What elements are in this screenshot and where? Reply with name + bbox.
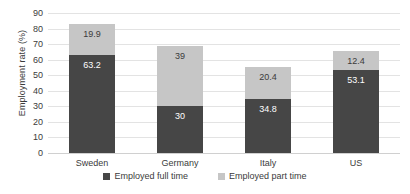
bar-segment-part-time[interactable]: 39 <box>157 46 203 107</box>
bar-value-label: 30 <box>157 112 203 121</box>
legend-swatch-icon <box>218 173 225 180</box>
legend-swatch-icon <box>103 173 110 180</box>
bar-group[interactable]: 19.963.2 <box>69 24 115 153</box>
bar-value-label: 12.4 <box>333 57 379 66</box>
y-axis-tick-label: 90 <box>33 8 43 18</box>
plot-area: 0102030405060708090 19.963.2393020.434.8… <box>48 13 400 153</box>
bar-segment-part-time[interactable]: 12.4 <box>333 51 379 70</box>
bar-segment-full-time[interactable]: 30 <box>157 106 203 153</box>
y-axis-tick-label: 10 <box>33 132 43 142</box>
bar-value-label: 34.8 <box>245 105 291 114</box>
bar-segment-full-time[interactable]: 53.1 <box>333 70 379 153</box>
x-axis-category-label: Italy <box>223 158 313 168</box>
legend-item[interactable]: Employed full time <box>103 171 188 181</box>
y-axis-tick-label: 80 <box>33 24 43 34</box>
bar-segment-part-time[interactable]: 20.4 <box>245 67 291 99</box>
y-axis-tick-label: 30 <box>33 101 43 111</box>
bar-segment-full-time[interactable]: 63.2 <box>69 55 115 153</box>
y-axis-tick-label: 50 <box>33 70 43 80</box>
legend-item-label: Employed full time <box>114 171 188 181</box>
y-axis-tick-label: 40 <box>33 86 43 96</box>
legend-item[interactable]: Employed part time <box>218 171 307 181</box>
x-axis-category-label: US <box>311 158 401 168</box>
bar-value-label: 63.2 <box>69 61 115 70</box>
bar-segment-full-time[interactable]: 34.8 <box>245 99 291 153</box>
legend-item-label: Employed part time <box>229 171 307 181</box>
stacked-bar-chart: Employment rate (%) 0102030405060708090 … <box>0 0 410 194</box>
bar-value-label: 19.9 <box>69 30 115 39</box>
bar-value-label: 39 <box>157 52 203 61</box>
y-axis-tick-label: 20 <box>33 117 43 127</box>
gridline <box>48 153 400 154</box>
bar-group[interactable]: 20.434.8 <box>245 67 291 153</box>
x-axis-category-label: Sweden <box>47 158 137 168</box>
y-axis-title: Employment rate (%) <box>17 3 27 143</box>
chart-legend: Employed full timeEmployed part time <box>0 171 410 181</box>
bar-segment-part-time[interactable]: 19.9 <box>69 24 115 55</box>
y-axis-tick-label: 60 <box>33 55 43 65</box>
bar-value-label: 20.4 <box>245 73 291 82</box>
y-axis-tick-label: 0 <box>38 148 43 158</box>
bar-group[interactable]: 3930 <box>157 46 203 153</box>
y-axis-tick-label: 70 <box>33 39 43 49</box>
bar-value-label: 53.1 <box>333 76 379 85</box>
x-axis-category-label: Germany <box>135 158 225 168</box>
bar-group[interactable]: 12.453.1 <box>333 51 379 153</box>
bar-series-container: 19.963.2393020.434.812.453.1 <box>48 13 400 153</box>
